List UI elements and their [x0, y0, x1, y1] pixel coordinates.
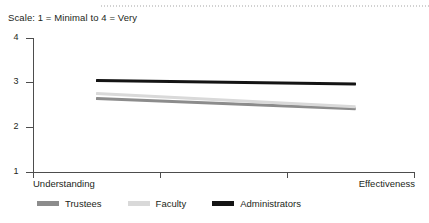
top-dotted-rule: [100, 5, 429, 7]
legend-item-faculty: Faculty: [128, 199, 187, 209]
series-line-administrators: [96, 79, 356, 86]
y-axis-label-1: 1: [8, 167, 24, 176]
x-tick-1: [160, 172, 161, 178]
chart-figure: Scale: 1 = Minimal to 4 = Very 4 3 2 1 U…: [0, 0, 429, 223]
legend-label-trustees: Trustees: [65, 199, 102, 209]
y-axis-label-2: 2: [8, 122, 24, 131]
x-tick-2: [287, 172, 288, 178]
y-tick-3: [26, 82, 34, 83]
legend-swatch-trustees: [37, 201, 59, 206]
y-axis-label-3: 3: [8, 77, 24, 86]
legend-label-faculty: Faculty: [156, 199, 187, 209]
y-axis-line: [33, 38, 34, 173]
y-tick-2: [26, 127, 34, 128]
y-axis-label-4: 4: [8, 33, 24, 42]
x-axis-line: [33, 172, 415, 173]
legend-item-trustees: Trustees: [37, 199, 102, 209]
legend-item-administrators: Administrators: [212, 199, 301, 209]
x-axis-label-left: Understanding: [33, 178, 95, 189]
legend-swatch-faculty: [128, 201, 150, 206]
x-axis-label-right: Effectiveness: [359, 178, 429, 189]
scale-note: Scale: 1 = Minimal to 4 = Very: [8, 12, 137, 23]
legend-swatch-administrators: [212, 201, 234, 206]
chart-legend: Trustees Faculty Administrators: [37, 199, 301, 209]
legend-label-administrators: Administrators: [240, 199, 301, 209]
y-tick-4: [26, 38, 34, 39]
